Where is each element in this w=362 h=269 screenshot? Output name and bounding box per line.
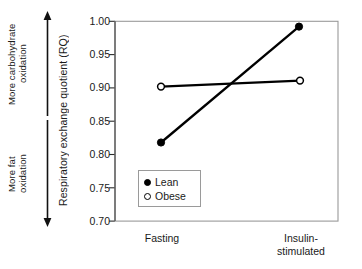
y-axis-tick-marks xyxy=(109,21,115,221)
legend-item-obese: Obese xyxy=(144,189,186,203)
x-tick-label-insulin-stimulated: Insulin- stimulated xyxy=(258,232,344,257)
legend-marker-filled-circle-icon xyxy=(144,179,151,186)
legend-marker-open-circle-icon xyxy=(144,193,151,200)
legend-label-lean: Lean xyxy=(155,177,178,188)
legend-item-lean: Lean xyxy=(144,175,178,189)
x-tick-label-fasting: Fasting xyxy=(122,232,202,245)
plot-area xyxy=(0,0,362,269)
data-point-lean-fasting xyxy=(157,139,164,146)
data-point-obese-insulin-stimulated xyxy=(297,77,304,84)
legend-label-obese: Obese xyxy=(155,191,186,202)
series-lean xyxy=(157,23,302,146)
figure-respiratory-exchange-quotient: More carbohydrate oxidation More fat oxi… xyxy=(0,0,362,269)
data-point-lean-insulin-stimulated xyxy=(295,23,302,30)
legend: Lean Obese xyxy=(138,170,201,207)
series-lean-line xyxy=(161,27,299,143)
data-point-obese-fasting xyxy=(158,83,165,90)
